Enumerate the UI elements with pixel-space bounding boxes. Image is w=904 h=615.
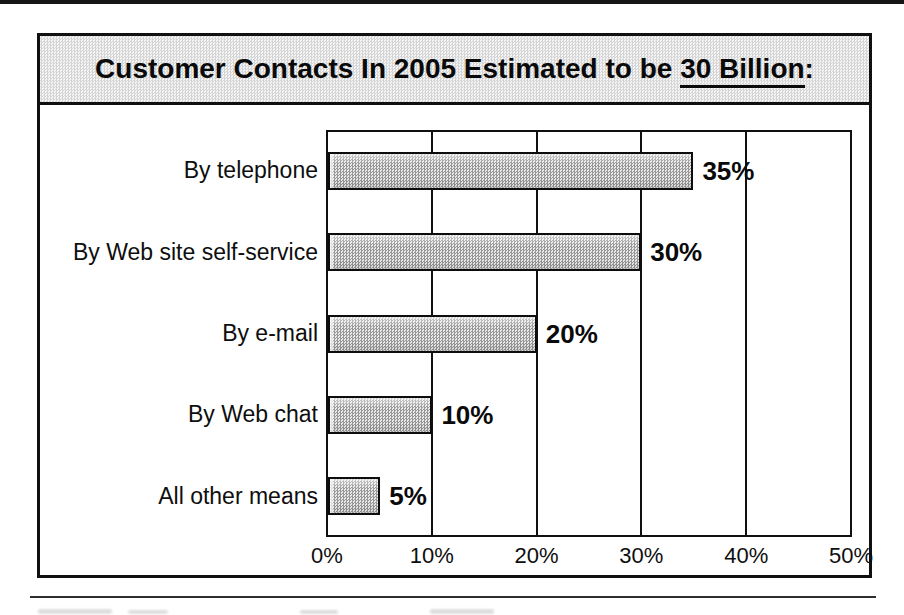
category-label: All other means xyxy=(36,456,318,537)
x-axis-tick-label: 30% xyxy=(596,543,686,569)
bar xyxy=(328,152,693,190)
gridline xyxy=(745,130,747,537)
figure-title-bar: Customer Contacts In 2005 Estimated to b… xyxy=(40,36,869,105)
x-axis-tick-label: 10% xyxy=(387,543,477,569)
value-label: 5% xyxy=(389,477,427,515)
value-label: 20% xyxy=(546,315,598,353)
bar xyxy=(328,396,432,434)
bottom-rule xyxy=(30,596,876,598)
category-label: By telephone xyxy=(36,130,318,211)
bar xyxy=(328,477,380,515)
value-label: 30% xyxy=(650,233,702,271)
bar xyxy=(328,315,537,353)
title-underlined-text: 30 Billion xyxy=(680,53,804,88)
figure-title: Customer Contacts In 2005 Estimated to b… xyxy=(95,53,814,85)
value-label: 35% xyxy=(702,152,754,190)
value-label: 10% xyxy=(441,396,493,434)
cutoff-text-remnant xyxy=(38,609,112,614)
gridline xyxy=(640,130,642,537)
cutoff-text-remnant xyxy=(430,609,494,614)
x-axis-tick-label: 50% xyxy=(806,543,896,569)
page: { "chart_data": { "type": "bar", "orient… xyxy=(0,0,904,615)
cutoff-text-remnant xyxy=(300,610,338,614)
category-label: By Web chat xyxy=(36,374,318,455)
bar xyxy=(328,233,641,271)
x-axis-tick-label: 20% xyxy=(492,543,582,569)
cutoff-text-remnant xyxy=(128,610,168,614)
title-suffix: : xyxy=(805,53,814,84)
top-edge-bar xyxy=(0,0,904,4)
title-prefix: Customer Contacts In 2005 Estimated to b… xyxy=(95,53,680,84)
x-axis-tick-label: 0% xyxy=(282,543,372,569)
category-label: By e-mail xyxy=(36,293,318,374)
x-axis-tick-label: 40% xyxy=(701,543,791,569)
category-label: By Web site self-service xyxy=(36,211,318,292)
